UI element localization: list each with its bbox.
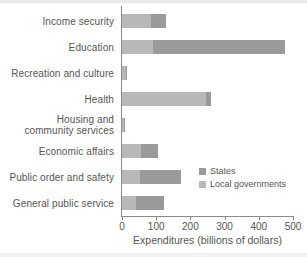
x-axis-tick-label: 400 xyxy=(244,221,274,232)
bar-segment-local-governments xyxy=(122,14,151,28)
x-axis-tick-label: 100 xyxy=(141,221,171,232)
bar-public-order-and-safety xyxy=(122,170,181,184)
bar-segment-states xyxy=(151,14,166,28)
y-axis-label-education: Education xyxy=(0,42,114,53)
bar-segment-states xyxy=(206,92,211,106)
legend-item: Local governments xyxy=(199,179,286,190)
bar-segment-local-governments xyxy=(122,144,141,158)
bar-segment-local-governments xyxy=(122,170,140,184)
bar-segment-local-governments xyxy=(122,40,153,54)
legend-label: States xyxy=(210,166,236,177)
y-axis-label-public-order-and-safety: Public order and safety xyxy=(0,172,114,183)
x-axis-tick xyxy=(190,216,191,220)
y-axis-label-line: Public order and safety xyxy=(0,172,114,183)
y-axis-label-economic-affairs: Economic affairs xyxy=(0,146,114,157)
x-axis-line xyxy=(121,216,294,217)
x-axis-tick-label: 300 xyxy=(210,221,240,232)
bar-segment-states xyxy=(136,196,164,210)
x-axis-title: Expenditures (billions of dollars) xyxy=(110,234,305,246)
scan-edge-top xyxy=(0,0,307,3)
y-axis-label-line: Health xyxy=(0,94,114,105)
y-axis-label-income-security: Income security xyxy=(0,16,114,27)
bar-income-security xyxy=(122,14,166,28)
bar-health xyxy=(122,92,211,106)
y-axis-label-line: Economic affairs xyxy=(0,146,114,157)
x-axis-tick-label: 200 xyxy=(175,221,205,232)
x-axis-tick xyxy=(156,216,157,220)
bar-recreation-and-culture xyxy=(122,66,126,80)
y-axis-label-line: Education xyxy=(0,42,114,53)
y-axis-label-line: Housing and xyxy=(0,114,114,125)
legend-swatch-icon xyxy=(199,181,206,188)
y-axis-label-recreation-and-culture: Recreation and culture xyxy=(0,68,114,79)
legend-item: States xyxy=(199,166,286,177)
y-axis-label-line: General public service xyxy=(0,198,114,209)
bar-housing-and-community-services xyxy=(122,118,124,132)
bar-segment-local-governments xyxy=(122,92,206,106)
bar-segment-local-governments xyxy=(122,196,136,210)
chart-legend: StatesLocal governments xyxy=(199,166,286,192)
y-axis-label-housing-and-community-services: Housing andcommunity services xyxy=(0,114,114,136)
x-axis-tick xyxy=(225,216,226,220)
x-axis-tick xyxy=(122,216,123,220)
bar-segment-states xyxy=(141,144,158,158)
y-axis-line xyxy=(121,6,122,216)
y-axis-label-general-public-service: General public service xyxy=(0,198,114,209)
x-axis-tick-label: 0 xyxy=(107,221,137,232)
bar-education xyxy=(122,40,285,54)
x-axis-tick-label: 500 xyxy=(278,221,307,232)
y-axis-label-line: Income security xyxy=(0,16,114,27)
x-axis-tick xyxy=(259,216,260,220)
bar-economic-affairs xyxy=(122,144,158,158)
legend-label: Local governments xyxy=(210,179,286,190)
bar-segment-states xyxy=(140,170,181,184)
y-axis-label-line: community services xyxy=(0,125,114,136)
bar-segment-states xyxy=(153,40,285,54)
y-axis-label-health: Health xyxy=(0,94,114,105)
x-axis-tick xyxy=(293,216,294,220)
y-axis-label-line: Recreation and culture xyxy=(0,68,114,79)
bar-chart: Income securityEducationRecreation and c… xyxy=(0,0,307,257)
bar-general-public-service xyxy=(122,196,164,210)
scan-edge-bottom xyxy=(0,253,307,257)
legend-swatch-icon xyxy=(199,168,206,175)
